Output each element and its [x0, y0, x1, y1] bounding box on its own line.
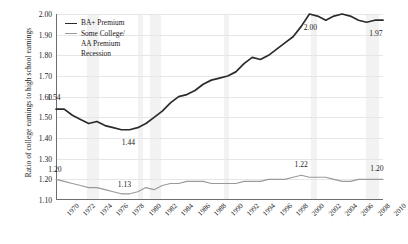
- x-tick-label: 1980: [147, 202, 163, 218]
- y-tick-label: 1.30: [39, 154, 52, 163]
- x-tick-label: 2000: [310, 202, 326, 218]
- x-tick-label: 1992: [245, 202, 261, 218]
- x-tick-label: 1996: [278, 202, 294, 218]
- y-tick-label: 1.20: [39, 175, 52, 184]
- data-point-label: 1.20: [370, 164, 383, 173]
- x-tick-label: 2008: [376, 202, 392, 218]
- x-tick-label: 2006: [360, 202, 376, 218]
- y-axis-title: Ratio of college earnings to high school…: [24, 13, 33, 193]
- legend-label: AA Premium: [81, 39, 125, 49]
- x-tick-label: 1994: [261, 202, 277, 218]
- y-tick-label: 2.00: [39, 10, 52, 19]
- x-tick-label: 1984: [180, 202, 196, 218]
- x-tick-label: 1982: [163, 202, 179, 218]
- legend-label: Some College/: [81, 29, 125, 39]
- series-line: [56, 175, 383, 194]
- x-tick-label: 1990: [229, 202, 245, 218]
- legend-line-gray-icon: [65, 30, 77, 38]
- legend-item: Some College/: [65, 29, 125, 39]
- x-tick-label: 2004: [343, 202, 359, 218]
- x-tick-label: 1986: [196, 202, 212, 218]
- x-tick-label: 1988: [212, 202, 228, 218]
- x-tick-label: 2002: [327, 202, 343, 218]
- x-tick-label: 1970: [65, 202, 81, 218]
- data-point-label: 2.00: [304, 23, 317, 32]
- x-tick-label: 1976: [114, 202, 130, 218]
- y-tick-label: 1.80: [39, 51, 52, 60]
- data-point-label: 1.54: [47, 93, 60, 102]
- chart-legend: BA+ PremiumSome College/AA PremiumRecess…: [62, 16, 128, 61]
- y-tick-label: 1.10: [39, 196, 52, 205]
- data-point-label: 1.97: [369, 29, 382, 38]
- data-point-label: 1.22: [295, 160, 308, 169]
- data-point-label: 1.44: [122, 137, 135, 146]
- legend-line-dark-icon: [65, 19, 77, 27]
- x-tick-label: 1998: [294, 202, 310, 218]
- y-tick-label: 1.40: [39, 134, 52, 143]
- legend-item: BA+ Premium: [65, 18, 125, 28]
- x-tick-label: 1972: [82, 202, 98, 218]
- legend-label: Recession: [81, 49, 125, 59]
- x-tick-label: 2010: [392, 202, 408, 218]
- y-tick-label: 1.70: [39, 72, 52, 81]
- x-tick-label: 1974: [98, 202, 114, 218]
- data-point-label: 1.20: [48, 165, 61, 174]
- legend-label: BA+ Premium: [81, 18, 124, 28]
- x-tick-label: 1978: [131, 202, 147, 218]
- y-tick-label: 1.50: [39, 113, 52, 122]
- y-tick-label: 1.90: [39, 30, 52, 39]
- data-point-label: 1.13: [118, 179, 131, 188]
